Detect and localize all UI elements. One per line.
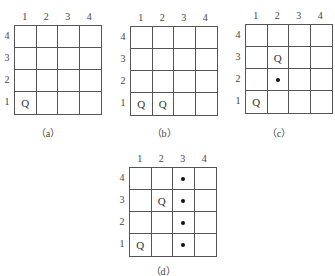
board-cell bbox=[173, 168, 195, 190]
board-cell bbox=[311, 91, 333, 113]
board-cell bbox=[173, 234, 195, 256]
board-cell bbox=[15, 26, 37, 48]
board-cell bbox=[289, 47, 311, 69]
queen-marker: Q bbox=[137, 98, 145, 110]
column-label: 3 bbox=[172, 153, 194, 164]
board-cell bbox=[195, 190, 217, 212]
board-cell bbox=[311, 47, 333, 69]
board-cell bbox=[246, 69, 268, 91]
queen-marker: Q bbox=[21, 97, 29, 109]
column-label: 2 bbox=[267, 10, 289, 21]
board-caption: （d） bbox=[143, 263, 183, 276]
board-cell bbox=[153, 49, 175, 71]
board-cell bbox=[196, 93, 218, 115]
board-cell bbox=[58, 70, 80, 92]
board-cell bbox=[37, 48, 59, 70]
board-cell bbox=[153, 27, 175, 49]
board-cell bbox=[15, 48, 37, 70]
queen-marker: Q bbox=[136, 239, 144, 251]
row-label: 1 bbox=[233, 95, 243, 106]
board-cell bbox=[58, 92, 80, 114]
board-cell: Q bbox=[268, 47, 290, 69]
row-label: 4 bbox=[2, 30, 12, 41]
row-label: 1 bbox=[117, 238, 127, 249]
chessboard-grid: Q bbox=[14, 25, 102, 115]
board-cell bbox=[196, 71, 218, 93]
row-label: 4 bbox=[117, 172, 127, 183]
row-label: 2 bbox=[118, 75, 128, 86]
board-cell bbox=[15, 70, 37, 92]
chessboard-grid: QQ bbox=[130, 26, 218, 116]
board-cell bbox=[174, 93, 196, 115]
board-cell bbox=[268, 91, 290, 113]
board-cell: Q bbox=[130, 234, 152, 256]
row-label: 1 bbox=[118, 97, 128, 108]
row-label: 3 bbox=[117, 194, 127, 205]
attacked-marker-icon bbox=[181, 199, 185, 203]
board-cell bbox=[152, 234, 174, 256]
board-cell bbox=[196, 49, 218, 71]
board-cell bbox=[130, 190, 152, 212]
board-cell: Q bbox=[15, 92, 37, 114]
board-cell bbox=[131, 27, 153, 49]
board-cell bbox=[173, 212, 195, 234]
column-label: 2 bbox=[151, 153, 173, 164]
row-label: 4 bbox=[233, 29, 243, 40]
board-cell: Q bbox=[153, 93, 175, 115]
chessboard-grid: QQ bbox=[245, 24, 333, 114]
board-cell bbox=[153, 71, 175, 93]
row-label: 3 bbox=[233, 51, 243, 62]
board-caption: （b） bbox=[144, 125, 184, 140]
column-label: 4 bbox=[194, 153, 216, 164]
row-label: 1 bbox=[2, 96, 12, 107]
row-label: 2 bbox=[117, 216, 127, 227]
board-cell bbox=[37, 92, 59, 114]
column-label: 2 bbox=[152, 12, 174, 23]
board-cell bbox=[152, 212, 174, 234]
board-cell bbox=[289, 69, 311, 91]
column-label: 3 bbox=[57, 11, 79, 22]
queen-marker: Q bbox=[159, 98, 167, 110]
board-cell: Q bbox=[131, 93, 153, 115]
board-cell bbox=[37, 70, 59, 92]
attacked-marker-icon bbox=[276, 78, 280, 82]
board-cell bbox=[152, 168, 174, 190]
board-cell bbox=[80, 26, 102, 48]
queen-marker: Q bbox=[252, 96, 260, 108]
column-label: 3 bbox=[173, 12, 195, 23]
board-cell bbox=[131, 49, 153, 71]
board-cell bbox=[196, 27, 218, 49]
board-cell bbox=[195, 234, 217, 256]
column-label: 1 bbox=[130, 12, 152, 23]
column-label: 1 bbox=[245, 10, 267, 21]
board-cell bbox=[289, 25, 311, 47]
row-label: 2 bbox=[233, 73, 243, 84]
board-cell bbox=[37, 26, 59, 48]
board-cell bbox=[131, 71, 153, 93]
board-cell bbox=[80, 48, 102, 70]
attacked-marker-icon bbox=[181, 177, 185, 181]
column-label: 4 bbox=[79, 11, 101, 22]
attacked-marker-icon bbox=[181, 243, 185, 247]
board-cell bbox=[58, 48, 80, 70]
column-label: 1 bbox=[14, 11, 36, 22]
column-label: 1 bbox=[129, 153, 151, 164]
board-cell bbox=[58, 26, 80, 48]
row-label: 2 bbox=[2, 74, 12, 85]
board-cell bbox=[268, 69, 290, 91]
board-cell bbox=[311, 69, 333, 91]
column-label: 4 bbox=[195, 12, 217, 23]
row-label: 3 bbox=[118, 53, 128, 64]
board-caption: （a） bbox=[28, 125, 68, 140]
board-cell bbox=[80, 92, 102, 114]
board-cell bbox=[174, 49, 196, 71]
board-cell bbox=[246, 47, 268, 69]
column-label: 2 bbox=[36, 11, 58, 22]
board-cell bbox=[195, 212, 217, 234]
board-cell bbox=[80, 70, 102, 92]
row-label: 4 bbox=[118, 31, 128, 42]
board-caption: （c） bbox=[259, 125, 299, 140]
board-cell: Q bbox=[246, 91, 268, 113]
board-cell bbox=[195, 168, 217, 190]
column-label: 3 bbox=[288, 10, 310, 21]
